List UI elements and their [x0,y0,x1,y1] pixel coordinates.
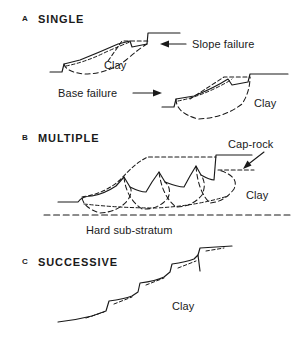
section-letter-c: C [22,257,28,266]
cap-rock-arrowhead [243,161,252,170]
landslide-types-figure: A SINGLE Clay Slope failure Clay Base fa… [0,0,296,338]
diagram-slope-failure: Clay Slope failure [50,33,254,74]
shear-surface-5 [206,248,224,251]
section-letter-a: A [22,14,28,23]
basal-shear-line [84,196,228,208]
original-surface-multiple [82,157,216,197]
ground-profile-multiple [58,155,252,202]
diagram-base-failure: Clay Base failure [58,74,288,119]
diagram-canvas: A SINGLE Clay Slope failure Clay Base fa… [0,0,296,338]
section-title-single: SINGLE [38,13,84,25]
label-clay-successive: Clay [172,300,195,312]
label-slope-failure: Slope failure [192,38,254,50]
section-title-successive: SUCCESSIVE [38,256,118,268]
original-surface-dashed-base [190,77,250,99]
label-base-failure: Base failure [58,87,117,99]
label-clay-slope-failure: Clay [104,59,127,71]
slip-surface-4 [196,166,235,203]
ground-profile-successive-crest [198,246,232,255]
slip-surface-2 [124,177,169,209]
base-failure-arrowhead [153,90,162,97]
diagram-multiple-failure: Cap-rock Clay Hard sub-stratum [44,138,290,236]
label-cap-rock: Cap-rock [228,138,274,150]
label-hard-sub-stratum: Hard sub-stratum [86,224,173,236]
label-clay-base-failure: Clay [254,97,277,109]
slope-failure-arrowhead [160,41,169,48]
original-surface-dashed [108,41,148,61]
section-letter-b: B [22,133,28,142]
section-title-multiple: MULTIPLE [38,132,99,144]
label-clay-multiple: Clay [246,189,269,201]
